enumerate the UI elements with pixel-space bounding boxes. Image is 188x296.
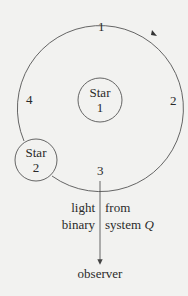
orbit-direction-arrow-icon bbox=[151, 30, 157, 36]
system-q-italic: Q bbox=[144, 217, 154, 232]
binary-star-diagram: 1 2 3 4 Star 1 Star 2 light binary from … bbox=[0, 0, 188, 296]
star-2-label-line1: Star bbox=[26, 145, 48, 160]
star-2-label-line2: 2 bbox=[33, 160, 40, 175]
beam-label-right-1: from bbox=[105, 200, 130, 215]
beam-label-left-1: light bbox=[71, 200, 95, 215]
star-1-label-line1: Star bbox=[90, 85, 112, 100]
system-text: system bbox=[105, 217, 144, 232]
orbit-label-3: 3 bbox=[97, 163, 104, 178]
beam-label-left-2: binary bbox=[62, 217, 96, 232]
observer-label: observer bbox=[78, 266, 123, 281]
star-1-label-line2: 1 bbox=[97, 100, 104, 115]
orbit-label-1: 1 bbox=[98, 19, 105, 34]
beam-label-right-2: system Q bbox=[105, 217, 154, 232]
orbit-label-2: 2 bbox=[170, 93, 177, 108]
orbit-label-4: 4 bbox=[26, 92, 33, 107]
